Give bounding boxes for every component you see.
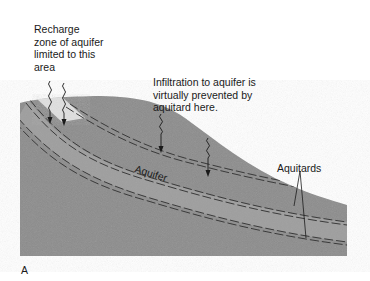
aquitards-label: Aquitards <box>277 162 321 175</box>
recharge-zone-label: Recharge zone of aquifer limited to this… <box>34 23 104 73</box>
infiltration-label: Infiltration to aquifer is virtually pre… <box>153 76 283 114</box>
panel-label: A <box>21 264 28 277</box>
